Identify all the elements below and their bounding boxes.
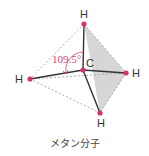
atom-dot-c [80, 67, 85, 72]
atom-dot-bottom-h [97, 110, 102, 115]
bond-left [30, 70, 83, 79]
atom-dot-left-h [27, 76, 32, 81]
bond-angle-label: 109.5° [52, 53, 81, 65]
bond-top [83, 24, 84, 70]
atom-label-bottom-h: H [97, 117, 105, 129]
methane-diagram: 109.5° H C H H H メタン分子 [0, 0, 149, 156]
diagram-caption: メタン分子 [0, 135, 149, 150]
atom-label-left-h: H [15, 73, 23, 85]
atom-dot-right-h [123, 70, 128, 75]
atom-label-c: C [86, 57, 94, 69]
atom-dot-top-h [81, 21, 86, 26]
atom-label-right-h: H [132, 67, 140, 79]
atom-label-top-h: H [80, 8, 88, 20]
